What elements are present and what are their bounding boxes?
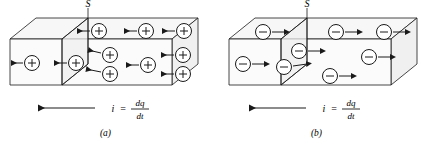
panel-caption-a: (a) [0,128,211,138]
plane-label-s-a: S [86,0,91,9]
plane-label-s-b: S [305,0,310,9]
current-equation-b: i = dq dt [323,98,360,121]
current-symbol-b: i [323,103,326,114]
panel-b: S [211,0,422,148]
numerator-b: dq [347,98,357,108]
equals-sign-a: = [120,103,126,114]
denominator-a: dt [136,111,144,121]
equals-sign-b: = [331,103,337,114]
denominator-b: dt [347,111,355,121]
current-equation-a: i = dq dt [112,98,149,121]
panel-b-drawing: S [211,0,422,148]
panel-a: S [0,0,211,148]
current-symbol-a: i [112,103,115,114]
numerator-a: dq [136,98,146,108]
panel-a-drawing: S [0,0,211,148]
panel-caption-b: (b) [211,128,422,138]
current-direction-figure: S [0,0,422,148]
